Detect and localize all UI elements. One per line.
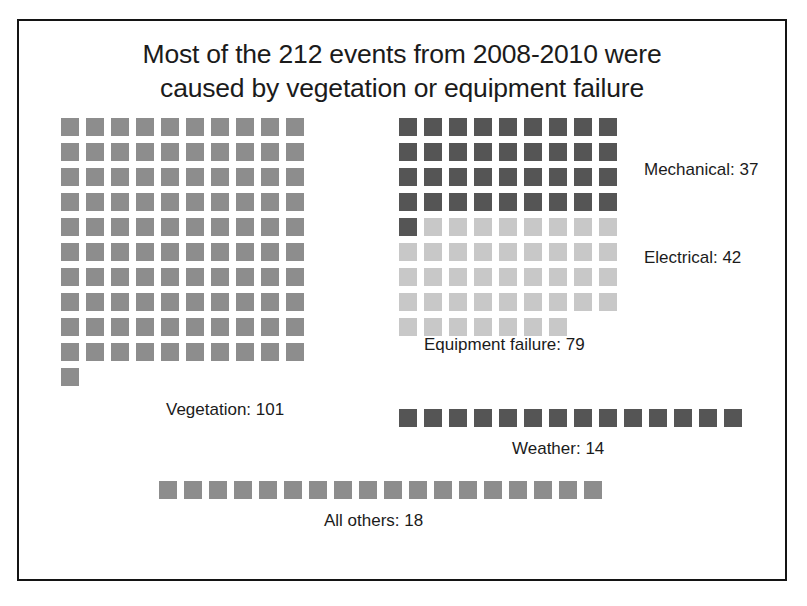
waffle-cell (86, 293, 104, 311)
waffle-cell (211, 318, 229, 336)
waffle-cell (86, 118, 104, 136)
waffle-cell (136, 193, 154, 211)
waffle-cell (284, 481, 302, 499)
waffle-cell (449, 318, 467, 336)
waffle-cell (499, 193, 517, 211)
waffle-cell (61, 293, 79, 311)
waffle-cell (211, 243, 229, 261)
waffle-cell (161, 268, 179, 286)
waffle-cell (136, 318, 154, 336)
waffle-cell (499, 409, 517, 427)
waffle-cell (599, 218, 617, 236)
waffle-cell (459, 481, 477, 499)
waffle-cell (186, 143, 204, 161)
waffle-cell (549, 118, 567, 136)
waffle-cell (161, 118, 179, 136)
waffle-cell (161, 343, 179, 361)
waffle-cell (236, 143, 254, 161)
waffle-cell (236, 193, 254, 211)
waffle-cell (574, 243, 592, 261)
waffle-cell (86, 318, 104, 336)
waffle-cell (424, 409, 442, 427)
waffle-cell (599, 118, 617, 136)
waffle-cell (236, 318, 254, 336)
waffle-cell (574, 168, 592, 186)
waffle-cell (111, 243, 129, 261)
waffle-cell (286, 118, 304, 136)
waffle-cell (111, 293, 129, 311)
waffle-cell (186, 193, 204, 211)
waffle-cell (424, 218, 442, 236)
series-label-weather: Weather: 14 (512, 439, 604, 459)
waffle-cell (499, 243, 517, 261)
waffle-cell (574, 268, 592, 286)
waffle-cell (61, 368, 79, 386)
waffle-cell (499, 268, 517, 286)
waffle-cell (236, 118, 254, 136)
waffle-cell (449, 293, 467, 311)
waffle-cell (61, 143, 79, 161)
waffle-cell (186, 218, 204, 236)
waffle-cell (286, 168, 304, 186)
waffle-cell (549, 218, 567, 236)
waffle-cell (61, 343, 79, 361)
waffle-cell (424, 293, 442, 311)
waffle-cell (559, 481, 577, 499)
waffle-cell (184, 481, 202, 499)
waffle-cell (111, 343, 129, 361)
waffle-cell (286, 193, 304, 211)
waffle-cell (499, 293, 517, 311)
waffle-cell (211, 218, 229, 236)
waffle-cell (624, 409, 642, 427)
waffle-cell (599, 409, 617, 427)
waffle-cell (549, 318, 567, 336)
waffle-cell (161, 143, 179, 161)
waffle-cell (474, 409, 492, 427)
waffle-cell (409, 481, 427, 499)
waffle-cell (261, 218, 279, 236)
waffle-cell (574, 409, 592, 427)
waffle-cell (61, 318, 79, 336)
waffle-cell (334, 481, 352, 499)
waffle-cell (86, 143, 104, 161)
waffle-cell (699, 409, 717, 427)
waffle-cell (674, 409, 692, 427)
waffle-cell (599, 268, 617, 286)
waffle-cell (509, 481, 527, 499)
waffle-cell (211, 193, 229, 211)
waffle-grid-vegetation (61, 118, 304, 386)
waffle-cell (549, 243, 567, 261)
waffle-cell (286, 268, 304, 286)
waffle-cell (136, 218, 154, 236)
waffle-cell (186, 118, 204, 136)
waffle-cell (211, 293, 229, 311)
waffle-cell (186, 168, 204, 186)
waffle-cell (259, 481, 277, 499)
waffle-block-all-others: All others: 18 (159, 481, 602, 499)
waffle-cell (384, 481, 402, 499)
waffle-cell (286, 343, 304, 361)
waffle-cell (524, 193, 542, 211)
waffle-cell (236, 343, 254, 361)
waffle-cell (399, 118, 417, 136)
waffle-cell (209, 481, 227, 499)
waffle-cell (136, 343, 154, 361)
waffle-cell (424, 193, 442, 211)
waffle-cell (61, 118, 79, 136)
waffle-cell (261, 143, 279, 161)
waffle-cell (236, 218, 254, 236)
waffle-cell (236, 293, 254, 311)
waffle-cell (161, 193, 179, 211)
waffle-cell (549, 143, 567, 161)
waffle-cell (424, 318, 442, 336)
waffle-cell (499, 143, 517, 161)
waffle-cell (574, 118, 592, 136)
waffle-cell (399, 243, 417, 261)
waffle-cell (236, 168, 254, 186)
waffle-cell (474, 318, 492, 336)
waffle-cell (211, 143, 229, 161)
waffle-cell (159, 481, 177, 499)
waffle-cell (549, 409, 567, 427)
waffle-cell (399, 409, 417, 427)
waffle-block-equipment-failure: Mechanical: 37 Electrical: 42 Equipment … (399, 118, 617, 336)
